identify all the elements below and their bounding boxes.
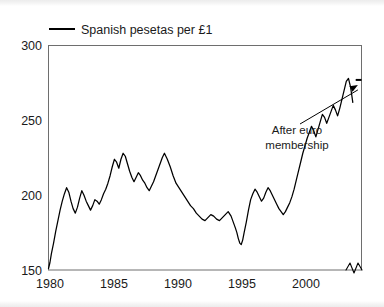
annotation-text-group: After euro membership <box>265 124 328 151</box>
x-axis-break-mark <box>346 263 362 273</box>
y-tick-300: 300 <box>21 39 42 53</box>
y-tick-150: 150 <box>21 264 42 278</box>
legend-label: Spanish pesetas per £1 <box>81 23 212 37</box>
y-tick-250: 250 <box>21 114 42 128</box>
x-tick-1985: 1985 <box>100 277 128 291</box>
line-chart-svg: Spanish pesetas per £1 300 250 200 150 1… <box>0 0 384 307</box>
series-line-spanish-pesetas <box>49 78 353 268</box>
chart-legend: Spanish pesetas per £1 <box>49 23 212 37</box>
annotation-line-1: After euro <box>272 124 323 136</box>
annotation-line-2: membership <box>265 139 328 151</box>
x-tick-1980: 1980 <box>36 277 64 291</box>
x-tick-1995: 1995 <box>228 277 256 291</box>
chart-figure: Spanish pesetas per £1 300 250 200 150 1… <box>0 0 384 307</box>
plot-frame <box>49 46 362 271</box>
y-axis-tick-labels: 300 250 200 150 <box>21 39 42 278</box>
x-tick-1990: 1990 <box>164 277 192 291</box>
x-tick-2000: 2000 <box>292 277 320 291</box>
y-tick-200: 200 <box>21 189 42 203</box>
x-axis-tick-labels: 1980 1985 1990 1995 2000 <box>36 277 320 291</box>
